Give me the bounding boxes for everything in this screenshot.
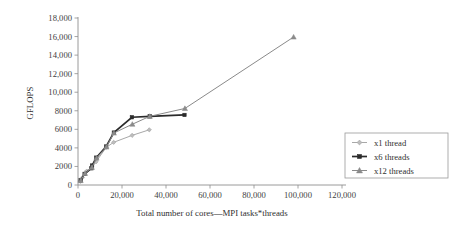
series-layer <box>78 34 296 183</box>
y-tick-label: 16,000 <box>48 32 72 42</box>
series-path <box>81 37 294 181</box>
y-tick-label: 6000 <box>55 124 72 134</box>
x-tick-label: 80,000 <box>242 190 266 200</box>
x-axis-title: Total number of cores—MPI tasks*threads <box>136 208 288 218</box>
x-tick-label: 120,000 <box>328 190 356 200</box>
series-x12-threads <box>78 34 296 182</box>
x-tick-label: 0 <box>76 190 80 200</box>
y-tick-label: 18,000 <box>48 13 72 23</box>
y-tick-label: 14,000 <box>48 50 72 60</box>
y-tick-label: 4000 <box>55 143 72 153</box>
marker-triangle <box>291 34 296 39</box>
legend-label: x6 threads <box>374 152 410 162</box>
legend-label: x1 thread <box>374 138 407 148</box>
y-tick-label: 0 <box>68 180 72 190</box>
marker-square <box>183 113 186 116</box>
x-axis-ticks: 020,00040,00060,00080,000100,000120,000 <box>76 185 356 200</box>
y-axis-ticks: 0200040006000800010,00012,00014,00016,00… <box>48 13 78 190</box>
legend: x1 threadx6 threadsx12 threads <box>345 133 448 178</box>
x-tick-label: 20,000 <box>110 190 134 200</box>
series-x1-thread <box>78 128 151 184</box>
legend-items: x1 threadx6 threadsx12 threads <box>352 138 415 176</box>
y-tick-label: 8000 <box>55 106 72 116</box>
x-tick-label: 100,000 <box>284 190 312 200</box>
y-tick-label: 2000 <box>55 161 72 171</box>
legend-label: x12 threads <box>374 166 415 176</box>
y-tick-label: 12,000 <box>48 69 72 79</box>
x-tick-label: 40,000 <box>154 190 178 200</box>
marker-square <box>358 155 362 159</box>
marker-diamond <box>130 133 134 137</box>
marker-square <box>130 116 133 119</box>
x-tick-label: 60,000 <box>198 190 222 200</box>
y-tick-label: 10,000 <box>48 87 72 97</box>
marker-triangle <box>130 122 135 127</box>
line-chart: GFLOPS 0200040006000800010,00012,00014,0… <box>0 0 454 229</box>
chart-figure: GFLOPS 0200040006000800010,00012,00014,0… <box>0 0 454 229</box>
series-path <box>80 130 149 181</box>
marker-triangle <box>182 106 187 111</box>
marker-diamond <box>147 128 151 132</box>
y-axis-title: GFLOPS <box>25 87 35 120</box>
